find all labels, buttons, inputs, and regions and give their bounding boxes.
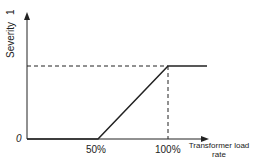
x-tick-100: 100% (155, 144, 181, 155)
x-axis-label-line1: Transformer load (185, 141, 253, 150)
x-axis-label: Transformer load rate (185, 141, 253, 159)
x-axis-label-line2: rate (185, 150, 253, 159)
y-axis-label: Severity 1 (5, 10, 16, 58)
y-axis-arrow-icon (24, 12, 30, 20)
y-tick-0: 0 (16, 133, 22, 144)
x-tick-50: 50% (86, 144, 106, 155)
series-line-severity (27, 66, 207, 139)
y-tick-1: 1 (5, 10, 16, 16)
y-axis-title: Severity (5, 22, 16, 58)
